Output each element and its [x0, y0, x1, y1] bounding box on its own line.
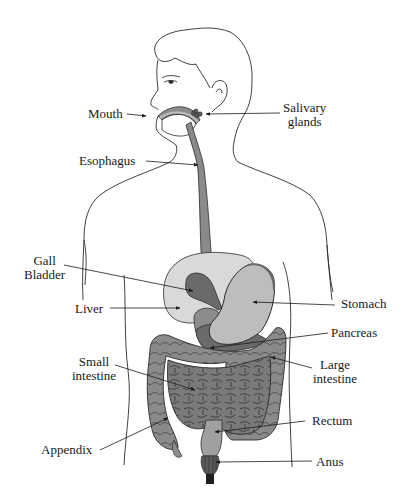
anal-canal [201, 456, 219, 484]
label-small-intestine: Small intestine [72, 355, 116, 383]
label-esophagus: Esophagus [79, 154, 135, 168]
label-large-line2: intestine [313, 372, 357, 386]
label-gall-bladder: Gall Bladder [24, 254, 65, 282]
label-salivary-glands: Salivary glands [283, 101, 326, 129]
label-small-line2: intestine [72, 369, 116, 383]
label-large-line1: Large [313, 358, 357, 372]
label-gall-line2: Bladder [24, 268, 65, 282]
label-appendix: Appendix [41, 443, 92, 457]
label-salivary-line1: Salivary [283, 101, 326, 115]
label-large-intestine: Large intestine [313, 358, 357, 386]
label-pancreas: Pancreas [331, 326, 377, 340]
label-mouth: Mouth [88, 107, 123, 121]
label-stomach: Stomach [341, 297, 387, 311]
label-rectum: Rectum [312, 414, 352, 428]
label-salivary-line2: glands [283, 115, 326, 129]
label-anus: Anus [316, 455, 343, 469]
label-gall-line1: Gall [24, 254, 65, 268]
label-liver: Liver [75, 302, 103, 316]
label-small-line1: Small [72, 355, 116, 369]
